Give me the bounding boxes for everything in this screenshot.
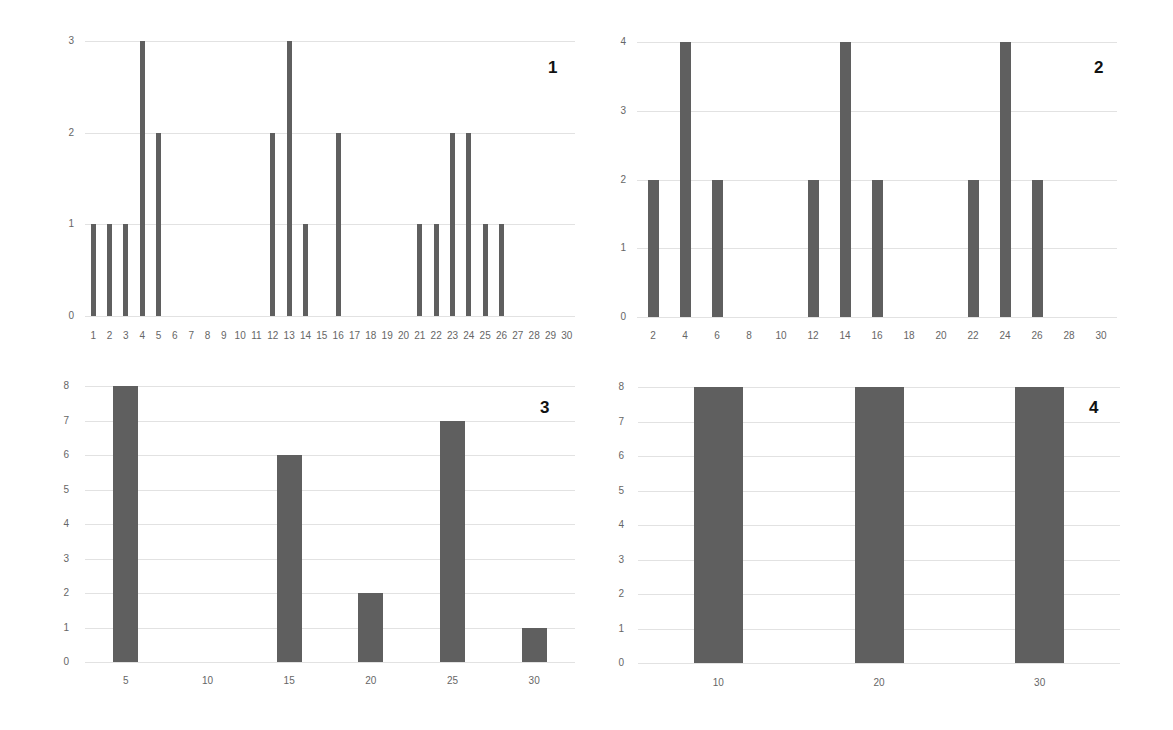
y-tick-label: 6 — [610, 450, 624, 461]
y-tick-label: 4 — [55, 518, 69, 529]
x-tick-label: 12 — [803, 330, 823, 341]
panel-number-label: 3 — [540, 398, 549, 418]
x-tick-label: 6 — [707, 330, 727, 341]
gridline — [637, 111, 1117, 112]
y-tick-label: 1 — [610, 623, 624, 634]
bar — [156, 133, 161, 316]
y-tick-label: 8 — [55, 380, 69, 391]
y-tick-label: 1 — [612, 242, 626, 253]
panel-number-label: 4 — [1089, 398, 1098, 418]
bar — [123, 224, 128, 316]
bar — [417, 224, 422, 316]
bar — [648, 180, 659, 318]
y-tick-label: 1 — [55, 622, 69, 633]
x-tick-label: 5 — [116, 675, 136, 686]
x-tick-label: 30 — [524, 675, 544, 686]
y-tick-label: 2 — [60, 127, 74, 138]
bar — [808, 180, 819, 318]
y-tick-label: 3 — [55, 553, 69, 564]
bar — [1015, 387, 1064, 663]
bar — [277, 455, 302, 662]
panel-number-label: 1 — [548, 58, 557, 78]
y-tick-label: 3 — [60, 35, 74, 46]
bar — [1000, 42, 1011, 317]
gridline — [85, 386, 575, 387]
y-tick-label: 6 — [55, 449, 69, 460]
bar — [434, 224, 439, 316]
y-tick-label: 0 — [612, 311, 626, 322]
x-tick-label: 28 — [1059, 330, 1079, 341]
bar — [694, 387, 743, 663]
x-tick-label: 30 — [1091, 330, 1111, 341]
bar — [336, 133, 341, 316]
x-tick-label: 15 — [279, 675, 299, 686]
y-tick-label: 3 — [612, 105, 626, 116]
x-tick-label: 14 — [835, 330, 855, 341]
y-tick-label: 2 — [55, 587, 69, 598]
y-tick-label: 8 — [610, 381, 624, 392]
x-tick-label: 24 — [995, 330, 1015, 341]
gridline — [85, 524, 575, 525]
bar — [680, 42, 691, 317]
bar — [113, 386, 138, 662]
bar — [855, 387, 904, 663]
gridline — [85, 421, 575, 422]
bar — [140, 41, 145, 316]
bar — [440, 421, 465, 663]
x-tick-label: 20 — [931, 330, 951, 341]
bar — [499, 224, 504, 316]
x-tick-label: 20 — [361, 675, 381, 686]
gridline — [85, 662, 575, 663]
bar — [483, 224, 488, 316]
gridline — [85, 316, 575, 317]
y-tick-label: 0 — [60, 310, 74, 321]
gridline — [637, 42, 1117, 43]
x-tick-label: 10 — [708, 677, 728, 688]
gridline — [638, 663, 1120, 664]
x-tick-label: 10 — [198, 675, 218, 686]
bar — [968, 180, 979, 318]
y-tick-label: 7 — [610, 416, 624, 427]
bar — [522, 628, 547, 663]
x-tick-label: 8 — [739, 330, 759, 341]
x-tick-label: 25 — [443, 675, 463, 686]
gridline — [85, 455, 575, 456]
bar — [91, 224, 96, 316]
x-tick-label: 4 — [675, 330, 695, 341]
x-tick-label: 20 — [869, 677, 889, 688]
panel-number-label: 2 — [1094, 58, 1103, 78]
bar — [872, 180, 883, 318]
y-tick-label: 7 — [55, 415, 69, 426]
bar — [287, 41, 292, 316]
bar — [303, 224, 308, 316]
bar — [1032, 180, 1043, 318]
bar — [466, 133, 471, 316]
gridline — [85, 628, 575, 629]
bar — [358, 593, 383, 662]
x-tick-label: 16 — [867, 330, 887, 341]
x-tick-label: 30 — [557, 330, 577, 341]
bar — [450, 133, 455, 316]
y-tick-label: 0 — [55, 656, 69, 667]
y-tick-label: 4 — [610, 519, 624, 530]
y-tick-label: 5 — [55, 484, 69, 495]
y-tick-label: 2 — [612, 174, 626, 185]
gridline — [85, 41, 575, 42]
y-tick-label: 5 — [610, 485, 624, 496]
bar — [270, 133, 275, 316]
bar — [107, 224, 112, 316]
y-tick-label: 4 — [612, 36, 626, 47]
x-tick-label: 10 — [771, 330, 791, 341]
y-tick-label: 1 — [60, 218, 74, 229]
x-tick-label: 2 — [643, 330, 663, 341]
x-tick-label: 30 — [1030, 677, 1050, 688]
gridline — [85, 593, 575, 594]
y-tick-label: 3 — [610, 554, 624, 565]
gridline — [85, 490, 575, 491]
gridline — [637, 317, 1117, 318]
bar — [712, 180, 723, 318]
y-tick-label: 2 — [610, 588, 624, 599]
x-tick-label: 26 — [1027, 330, 1047, 341]
x-tick-label: 18 — [899, 330, 919, 341]
y-tick-label: 0 — [610, 657, 624, 668]
